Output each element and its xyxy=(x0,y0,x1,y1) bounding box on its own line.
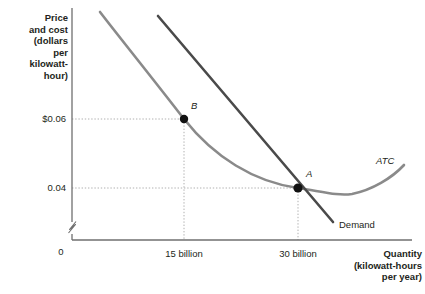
axis-break-icon xyxy=(69,222,77,234)
x-axis-title: Quantity (kilowatt-hours per year) xyxy=(318,248,422,283)
point-b-label: B xyxy=(191,100,197,112)
y-tick-label-004: 0.04 xyxy=(26,182,66,194)
x-tick-label-15-billion: 15 billion xyxy=(152,248,216,260)
atc-curve-label: ATC xyxy=(376,155,394,167)
point-a-label: A xyxy=(306,168,312,180)
point-b-marker xyxy=(180,115,188,123)
atc-curve xyxy=(100,12,404,195)
y-axis-title: Price and cost (dollars per kilowatt- ho… xyxy=(4,12,68,82)
chart-figure: Price and cost (dollars per kilowatt- ho… xyxy=(0,0,425,294)
y-tick-label-006: $0.06 xyxy=(26,113,66,125)
demand-line-label: Demand xyxy=(339,219,375,231)
origin-label: 0 xyxy=(52,246,70,258)
point-a-marker xyxy=(293,183,302,192)
